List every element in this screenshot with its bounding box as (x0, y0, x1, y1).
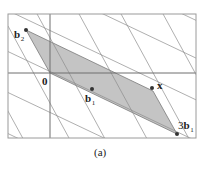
label-b2-sub: 2 (21, 35, 25, 43)
label-b1: b1 (85, 93, 95, 104)
figure-caption: (a) (94, 147, 106, 158)
point-3b1 (175, 132, 179, 136)
fundamental-parallelogram (26, 30, 177, 134)
label-3b1-main: b (184, 119, 190, 131)
label-3b1: 3b1 (178, 120, 194, 131)
point-b2 (24, 28, 28, 32)
label-b2-main: b (14, 28, 20, 40)
label-b1-sub: 1 (92, 99, 96, 107)
lattice-diagram (0, 0, 204, 169)
label-b2: b2 (14, 29, 24, 40)
label-3b1-sub: 1 (190, 126, 194, 134)
label-x: x (157, 80, 163, 91)
label-b1-main: b (85, 92, 91, 104)
label-origin: 0 (42, 76, 48, 87)
point-b1 (90, 87, 94, 91)
point-x (150, 86, 154, 90)
